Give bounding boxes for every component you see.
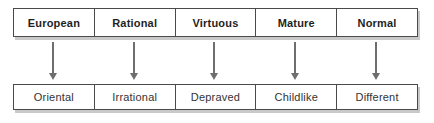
arrow-shaft xyxy=(133,42,135,73)
arrow-head xyxy=(49,73,57,80)
down-arrow-icon xyxy=(174,42,255,81)
top-cell-european: European xyxy=(14,9,95,36)
bottom-cell-irrational: Irrational xyxy=(95,85,176,109)
arrow-head xyxy=(291,73,299,80)
arrow-head xyxy=(130,73,138,80)
arrow-shaft xyxy=(294,42,296,73)
arrow-shaft xyxy=(213,42,215,73)
bottom-cell-childlike: Childlike xyxy=(256,85,337,109)
arrow-head xyxy=(210,73,218,80)
top-cell-mature: Mature xyxy=(256,9,337,36)
bottom-cell-oriental: Oriental xyxy=(14,85,95,109)
top-cell-normal: Normal xyxy=(337,9,417,36)
mapping-arrows xyxy=(13,42,416,81)
bottom-terms-row: Oriental Irrational Depraved Childlike D… xyxy=(13,84,418,110)
bottom-cell-different: Different xyxy=(337,85,417,109)
down-arrow-icon xyxy=(13,42,94,81)
arrow-head xyxy=(372,73,380,80)
down-arrow-icon xyxy=(255,42,336,81)
down-arrow-icon xyxy=(94,42,175,81)
top-terms-row: European Rational Virtuous Mature Normal xyxy=(13,8,418,37)
bottom-cell-depraved: Depraved xyxy=(176,85,257,109)
arrow-shaft xyxy=(52,42,54,73)
top-cell-rational: Rational xyxy=(95,9,176,36)
top-cell-virtuous: Virtuous xyxy=(176,9,257,36)
binary-opposition-diagram: European Rational Virtuous Mature Normal… xyxy=(0,0,434,123)
arrow-shaft xyxy=(375,42,377,73)
down-arrow-icon xyxy=(335,42,416,81)
